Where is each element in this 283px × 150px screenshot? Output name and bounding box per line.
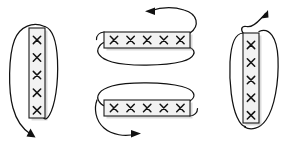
horizontal-bar-loop-top (97, 8, 197, 66)
arrowhead-bottom-group (131, 130, 141, 138)
diagram-svg (0, 0, 283, 150)
bar-fill-right (243, 33, 259, 123)
vertical-bar-loop-left (10, 25, 58, 138)
bar-fill-left (29, 28, 45, 118)
loop-path-top (150, 8, 196, 33)
loop-leftcap-top (97, 32, 105, 40)
vertical-bar-loop-right (230, 10, 278, 129)
arrowhead-right-group (261, 10, 269, 19)
diagram-canvas (0, 0, 283, 150)
arrowhead-top-group (145, 8, 155, 16)
horizontal-bar-loop-bottom (95, 83, 197, 138)
